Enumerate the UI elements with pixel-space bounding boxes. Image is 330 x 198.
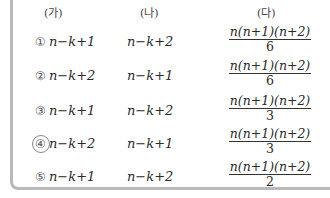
- choice-number: ②: [35, 69, 46, 83]
- value-na: n−k+1: [127, 68, 173, 83]
- value-na: n−k+2: [127, 34, 173, 49]
- header-da: (다): [257, 4, 276, 20]
- choice-number-circled: ④: [35, 137, 46, 151]
- choice-number: ①: [35, 35, 46, 49]
- value-da: n(n+1)(n+2)6: [222, 58, 318, 88]
- value-na: n−k+2: [127, 103, 173, 118]
- value-da: n(n+1)(n+2)3: [222, 93, 318, 123]
- header-ga: (가): [44, 4, 63, 20]
- value-na: n−k+1: [127, 136, 173, 151]
- value-ga: n−k+2: [49, 136, 95, 151]
- value-na: n−k+2: [127, 169, 173, 184]
- choice-number: ③: [35, 104, 46, 118]
- value-ga: n−k+1: [49, 169, 95, 184]
- value-da: n(n+1)(n+2)6: [222, 24, 318, 54]
- value-ga: n−k+1: [49, 103, 95, 118]
- value-ga: n−k+1: [49, 34, 95, 49]
- value-da: n(n+1)(n+2)2: [222, 159, 318, 189]
- choice-2[interactable]: ②n−k+2 n−k+1 n(n+1)(n+2)6: [0, 66, 322, 96]
- value-ga: n−k+2: [49, 68, 95, 83]
- choice-5[interactable]: ⑤n−k+1 n−k+2 n(n+1)(n+2)2: [0, 167, 322, 197]
- value-da: n(n+1)(n+2)3: [222, 126, 318, 156]
- header-na: (나): [140, 4, 159, 20]
- choice-number: ⑤: [35, 170, 46, 184]
